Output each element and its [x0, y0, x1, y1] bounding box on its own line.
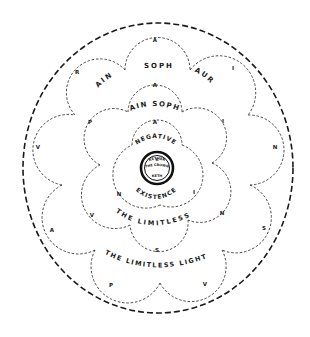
inner-letter-i: I	[193, 189, 195, 195]
middle-letter-s: S	[155, 247, 159, 253]
middle-letter-a-top: A	[153, 82, 158, 88]
label-negative: NEGATIVE	[134, 132, 179, 146]
label-ain-soph: AIN SOPH	[129, 100, 182, 113]
svg-text:THE LIMITLESS: THE LIMITLESS	[114, 207, 192, 227]
svg-text:NEGATIVE: NEGATIVE	[134, 132, 179, 146]
label-ain: AIN	[94, 71, 115, 90]
outer-letter-s-right: S	[262, 225, 266, 231]
outer-letter-a-top: A	[153, 37, 158, 43]
inner-letter-n: N	[117, 191, 122, 197]
label-soph: SOPH	[144, 62, 174, 70]
label-aur: AUR	[193, 66, 216, 86]
outer-letter-v-left: V	[36, 144, 41, 150]
outer-letter-r: R	[75, 69, 80, 75]
svg-text:AIN SOPH: AIN SOPH	[129, 100, 182, 113]
svg-text:EXISTENCE: EXISTENCE	[135, 185, 178, 200]
middle-letter-n: N	[220, 210, 225, 216]
outer-letter-n-right: N	[273, 144, 278, 150]
outer-letter-v-bottom: V	[203, 281, 208, 287]
svg-text:AUR: AUR	[193, 66, 216, 86]
outer-letter-a-left: A	[50, 227, 55, 233]
middle-letter-i: I	[222, 118, 224, 124]
svg-text:AIN: AIN	[94, 71, 115, 90]
ain-soph-diagram: K KETHER THE CROWN KETH AIN SOPH AUR AIN…	[0, 0, 310, 337]
kether-hebrew: KETH	[152, 174, 163, 178]
label-the-limitless: THE LIMITLESS	[114, 207, 192, 227]
middle-letter-p: P	[88, 119, 92, 125]
label-existence: EXISTENCE	[135, 185, 178, 200]
kether-circle: K KETHER THE CROWN KETH	[141, 152, 173, 184]
outer-letter-p: P	[109, 282, 113, 288]
outer-letter-i: I	[232, 65, 234, 71]
middle-letter-v: V	[90, 212, 95, 218]
inner-letter-a-top: A	[153, 119, 158, 125]
